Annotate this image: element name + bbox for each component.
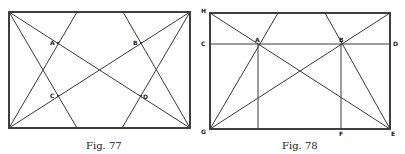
fig77-point-b (140, 42, 142, 44)
fig78-label-g: G (201, 128, 206, 135)
fig77-label-d: D (143, 93, 148, 100)
diagram-canvas: A B C D Fig. 77 H C A B D G F E Fig. 78 (0, 0, 405, 154)
fig78-line-ga (210, 13, 278, 129)
fig78-caption: Fig. 78 (282, 140, 318, 151)
fig77-point-a (57, 42, 59, 44)
fig77-label-a: A (50, 39, 55, 46)
fig78-label-e: E (391, 130, 395, 137)
fig78-label-c: C (201, 40, 206, 47)
fig77-point-d (140, 95, 142, 97)
fig78-label-f: F (339, 130, 343, 137)
fig78-label-d: D (393, 40, 398, 47)
fig77-label-b: B (133, 39, 138, 46)
fig78-label-b: B (339, 36, 344, 43)
fig77-label-c: C (50, 92, 55, 99)
fig77-point-c (57, 95, 59, 97)
fig78-label-h: H (201, 7, 206, 14)
fig78-line-eb (325, 13, 390, 129)
figure-77: A B C D Fig. 77 (9, 12, 190, 151)
fig78-label-a: A (255, 36, 260, 43)
fig77-caption: Fig. 77 (86, 140, 122, 151)
figure-78: H C A B D G F E Fig. 78 (201, 7, 398, 151)
